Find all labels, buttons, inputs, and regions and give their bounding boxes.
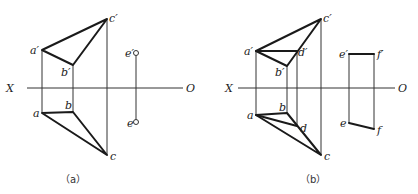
label-a: a <box>33 107 40 120</box>
label-e-prime: e′ <box>339 48 349 61</box>
triangle-top-view-b <box>256 113 321 155</box>
label-d-prime: d′ <box>298 46 308 59</box>
label-c-prime: c′ <box>323 12 332 25</box>
label-c: c <box>110 150 116 163</box>
label-c-prime: c′ <box>109 12 118 25</box>
axis-label-x: X <box>224 82 234 95</box>
label-b: b <box>65 99 72 112</box>
triangle-top-view-a <box>42 112 107 155</box>
figure-a: X O a′ b′ c′ e′ a b c e （a） <box>5 12 195 185</box>
label-e: e <box>127 117 134 130</box>
triangle-front-view-b <box>256 19 321 66</box>
label-f: f <box>376 124 383 137</box>
label-e-prime: e′ <box>125 47 135 60</box>
label-f-prime: f′ <box>376 48 384 61</box>
label-d: d <box>300 122 307 135</box>
point-e-marker <box>134 120 139 125</box>
axis-label-o: O <box>398 82 407 95</box>
axis-label-x: X <box>5 82 15 95</box>
caption-a: （a） <box>60 174 86 185</box>
label-e: e <box>340 117 347 130</box>
axis-label-o: O <box>186 82 195 95</box>
label-a-prime: a′ <box>244 45 254 58</box>
label-b-prime: b′ <box>275 66 285 79</box>
figure-b: X O a′ b′ c′ d′ e′ f′ a b d c e f （b） <box>224 12 407 185</box>
label-a-prime: a′ <box>30 44 40 57</box>
triangle-front-view-a <box>42 19 107 65</box>
label-b: b <box>279 101 286 114</box>
point-e-prime-marker <box>134 51 139 56</box>
line-e-f <box>349 123 374 129</box>
label-c: c <box>324 150 330 163</box>
label-a: a <box>247 109 254 122</box>
caption-b: （b） <box>300 174 326 185</box>
label-b-prime: b′ <box>61 66 71 79</box>
projection-diagram: X O a′ b′ c′ e′ a b c e （a） X O a′ <box>0 0 418 194</box>
